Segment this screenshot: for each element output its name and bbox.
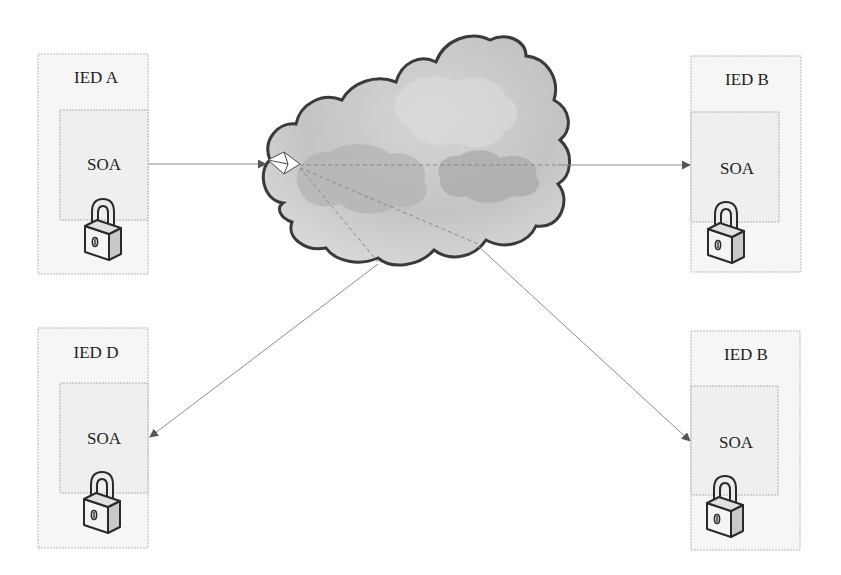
ied-b-bottom-title: IED B — [724, 345, 768, 364]
ied-d-soa-label: SOA — [87, 429, 122, 448]
ied-b-top-node[interactable]: IED B SOA — [691, 56, 801, 272]
cloud-icon — [263, 36, 569, 265]
ied-b-bottom-node[interactable]: IED B SOA — [691, 331, 800, 550]
cloud-shade-right — [438, 150, 539, 203]
ied-b-top-soa-label: SOA — [720, 159, 755, 178]
ied-d-node[interactable]: IED D SOA — [38, 328, 148, 548]
ied-a-node[interactable]: IED A SOA — [38, 54, 148, 274]
ied-network-diagram: IED A SOA IED B SOA IED D SOA IED B SOA — [0, 0, 841, 575]
ied-d-title: IED D — [74, 343, 119, 362]
link-network-to-ied-d — [150, 264, 378, 437]
network-cloud — [263, 36, 569, 265]
ied-a-title: IED A — [74, 68, 119, 87]
ied-b-top-title: IED B — [725, 70, 769, 89]
ied-a-soa-label: SOA — [87, 155, 122, 174]
link-network-to-ied-b-bottom — [478, 246, 690, 441]
ied-b-bottom-soa-label: SOA — [719, 433, 754, 452]
